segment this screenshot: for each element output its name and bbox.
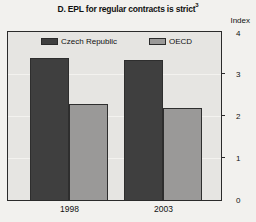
y-tick-2 <box>221 115 225 116</box>
chart-title: D. EPL for regular contracts is strict3 <box>0 3 256 14</box>
y-tick-label-2: 2 <box>236 112 240 121</box>
bar-czech-republic-1998 <box>30 58 69 200</box>
plot-area: Czech Republic OECD <box>7 31 222 201</box>
x-label-2003: 2003 <box>154 204 173 214</box>
chart-title-footnote-marker: 3 <box>195 2 198 8</box>
bar-czech-republic-2003 <box>124 60 163 200</box>
bar-oecd-2003 <box>163 108 202 200</box>
y-axis-unit-label: Index <box>230 16 250 25</box>
legend-item-czech-republic: Czech Republic <box>41 37 117 46</box>
chart-panel: D. EPL for regular contracts is strict3 … <box>0 0 256 222</box>
y-tick-label-1: 1 <box>236 153 240 162</box>
y-tick-1 <box>221 157 225 158</box>
legend-label-oecd: OECD <box>169 37 192 46</box>
y-tick-label-4: 4 <box>236 28 240 37</box>
bar-oecd-1998 <box>69 104 108 200</box>
x-label-1998: 1998 <box>60 204 79 214</box>
chart-title-text: D. EPL for regular contracts is strict <box>58 4 196 14</box>
y-tick-label-0: 0 <box>236 195 240 204</box>
y-tick-label-3: 3 <box>236 70 240 79</box>
legend-label-czech-republic: Czech Republic <box>61 37 117 46</box>
legend-swatch-czech-republic <box>41 38 58 45</box>
y-tick-3 <box>221 73 225 74</box>
legend-swatch-oecd <box>149 38 166 45</box>
legend-item-oecd: OECD <box>149 37 192 46</box>
